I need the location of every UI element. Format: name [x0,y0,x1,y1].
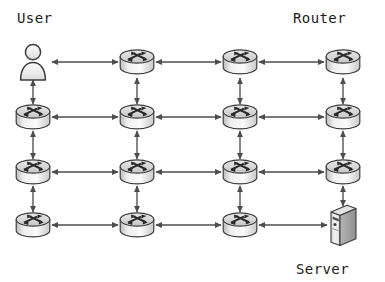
router-icon [223,160,257,184]
router-icon [326,50,360,74]
router-icon [223,213,257,237]
user-label: User [17,11,52,25]
router-icon [223,50,257,74]
topology-canvas [0,0,385,282]
nodes-layer [16,45,360,246]
router-icon [326,105,360,129]
server-icon [331,205,356,245]
router-icon [223,105,257,129]
router-icon [120,213,154,237]
router-icon [16,105,50,129]
links-layer [33,62,343,225]
router-icon [120,105,154,129]
network-topology-diagram: User Router Server [0,0,385,282]
server-label: Server [296,262,349,276]
router-label: Router [293,11,346,25]
router-icon [16,213,50,237]
router-icon [326,160,360,184]
user-icon [21,45,46,80]
router-icon [120,50,154,74]
router-icon [16,160,50,184]
router-icon [120,160,154,184]
